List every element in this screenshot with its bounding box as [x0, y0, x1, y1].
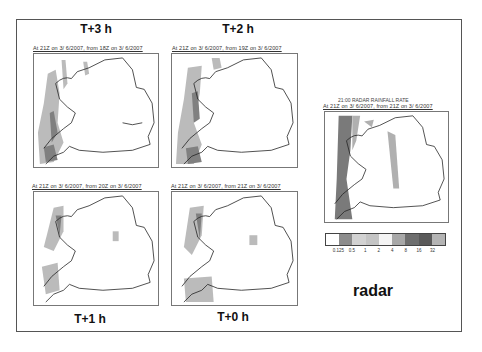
map-panel-radar	[324, 111, 449, 223]
panel-title-t1: T+1 h	[50, 312, 130, 326]
legend-tick: 1	[364, 248, 367, 253]
legend-swatch	[379, 234, 392, 245]
legend-swatch	[432, 234, 445, 245]
legend-swatch	[392, 234, 405, 245]
legend-tick: 2	[378, 248, 381, 253]
legend-swatch	[352, 234, 365, 245]
uk-coastline-map	[325, 112, 448, 222]
map-panel-t2	[171, 53, 298, 168]
map-panel-t3	[33, 53, 159, 168]
map-panel-t1	[33, 191, 159, 306]
legend-swatch	[326, 234, 339, 245]
rainfall-legend-colorbar	[325, 233, 446, 246]
legend-tick: 16	[417, 248, 422, 253]
uk-coastline-map	[172, 192, 297, 305]
panel-title-t2: T+2 h	[198, 22, 278, 36]
panel-caption-t3: At 21Z on 3/ 6/2007, from 18Z on 3/ 6/20…	[33, 45, 143, 51]
legend-tick: 0.5	[349, 248, 355, 253]
legend-swatch	[366, 234, 379, 245]
legend-tick-labels: 0.125 0.5 1 2 4 8 16 32	[325, 248, 446, 256]
legend-tick: 32	[430, 248, 435, 253]
radar-caption: At 21Z on 3/ 6/2007, from 21Z on 3/ 6/20…	[323, 103, 433, 109]
panel-caption-t2: At 21Z on 3/ 6/2007, from 19Z on 3/ 6/20…	[172, 45, 282, 51]
panel-caption-t0: At 21Z on 3/ 6/2007, from 21Z on 3/ 6/20…	[171, 183, 281, 189]
uk-coastline-map	[34, 192, 158, 305]
panel-title-t3: T+3 h	[56, 22, 136, 36]
legend-swatch	[339, 234, 352, 245]
legend-tick: 8	[404, 248, 407, 253]
panel-caption-t1: At 21Z on 3/ 6/2007, from 20Z on 3/ 6/20…	[32, 183, 142, 189]
legend-tick: 4	[391, 248, 394, 253]
uk-coastline-map	[34, 54, 158, 167]
panel-title-t0: T+0 h	[193, 310, 273, 324]
legend-swatch	[419, 234, 432, 245]
uk-coastline-map	[172, 54, 297, 167]
legend-swatch	[405, 234, 418, 245]
legend-tick: 0.125	[333, 248, 344, 253]
map-panel-t0	[171, 191, 298, 306]
radar-label: radar	[353, 282, 393, 300]
